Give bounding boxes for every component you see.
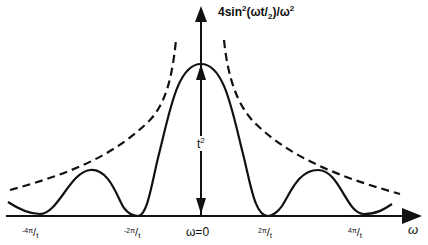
- x-axis-label: ω: [408, 222, 418, 237]
- peak-arrow-down-icon: [196, 198, 206, 214]
- tick-minus-2pi: -2π/t: [124, 226, 140, 240]
- plot-svg: [0, 0, 428, 245]
- peak-arrow-up-icon: [196, 64, 206, 80]
- diagram: 4sin2(ωt/2)/ω2 t2 -4π/t -2π/t ω=0 2π/t 4…: [0, 0, 428, 245]
- envelope-left: [10, 40, 176, 190]
- tick-4pi: 4π/t: [348, 226, 362, 240]
- tick-minus-4pi: -4π/t: [22, 226, 38, 240]
- origin-label: ω=0: [186, 225, 209, 239]
- y-axis-arrow-icon: [195, 6, 207, 22]
- y-axis-label: 4sin2(ωt/2)/ω2: [218, 4, 294, 21]
- peak-height-label: t2: [196, 136, 206, 151]
- tick-2pi: 2π/t: [258, 226, 272, 240]
